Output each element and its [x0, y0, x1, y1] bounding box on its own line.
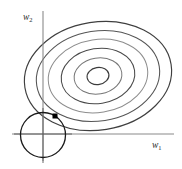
- x-axis-label: w1: [152, 140, 162, 151]
- contour-level-2: [71, 54, 124, 97]
- figure-canvas: w1 w2: [0, 0, 182, 169]
- x-axis-label-subscript: 1: [158, 144, 161, 151]
- contour-level-1: [86, 66, 110, 86]
- contour-group: [16, 11, 179, 141]
- solution-point-marker: [53, 114, 58, 119]
- regularization-figure: w1 w2: [0, 0, 182, 169]
- y-axis-label-subscript: 2: [29, 16, 32, 23]
- contour-level-4: [43, 32, 153, 120]
- y-axis-label: w2: [23, 12, 33, 23]
- contour-level-3: [57, 43, 139, 109]
